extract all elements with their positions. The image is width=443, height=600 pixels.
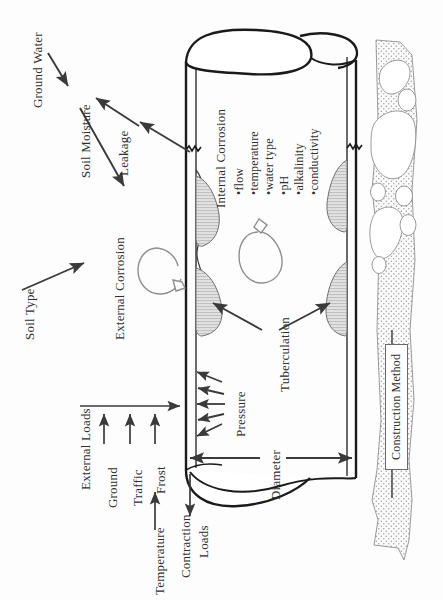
label-leakage: Leakage bbox=[116, 131, 132, 176]
internal-corrosion-rotation-icon bbox=[239, 219, 282, 283]
external-corrosion-rotation-icon bbox=[138, 248, 185, 294]
bullet-alkalinity: •alkalinity bbox=[292, 143, 307, 195]
diagram-canvas: Ground Water Soil Moisture Leakage Soil … bbox=[0, 0, 443, 600]
label-contraction: Contraction bbox=[178, 514, 194, 578]
label-internal-corrosion: Internal Corrosion bbox=[213, 109, 229, 208]
arrow-soiltype-to-externalcorrosion bbox=[22, 263, 84, 290]
pressure-arrow-group bbox=[197, 372, 225, 436]
bullet-ph: •pH bbox=[277, 176, 292, 195]
label-frost: Frost bbox=[153, 466, 169, 494]
arrow-groundwater-to-soilmoisture bbox=[48, 53, 68, 86]
diagram-vector-layer bbox=[0, 0, 443, 600]
label-loads: Loads bbox=[196, 525, 212, 558]
label-ground: Ground bbox=[105, 467, 121, 508]
label-soil-moisture: Soil Moisture bbox=[78, 104, 94, 178]
label-tuberculation: Tuberculation bbox=[277, 317, 293, 392]
label-ground-water: Ground Water bbox=[30, 32, 46, 108]
label-temperature: Temperature bbox=[152, 527, 168, 595]
label-construction-method: Construction Method bbox=[385, 344, 408, 470]
label-pressure: Pressure bbox=[233, 391, 249, 437]
bullet-flow: •flow bbox=[232, 168, 247, 195]
label-external-loads: External Loads bbox=[78, 408, 94, 490]
trench-backfill-region bbox=[370, 40, 417, 560]
label-external-corrosion: External Corrosion bbox=[112, 237, 128, 340]
arrow-leakage-to-soilmoisture bbox=[96, 98, 139, 126]
bullet-temperature: •temperature bbox=[247, 131, 262, 195]
label-diameter: Diameter bbox=[268, 450, 284, 500]
label-soil-type: Soil Type bbox=[22, 288, 38, 340]
bullet-conductivity: •conductivity bbox=[307, 128, 322, 195]
pipe-body bbox=[186, 30, 362, 506]
label-traffic: Traffic bbox=[130, 469, 146, 506]
bullet-water-type: •water type bbox=[262, 138, 277, 195]
arrow-pipe-to-leakage bbox=[140, 122, 190, 152]
